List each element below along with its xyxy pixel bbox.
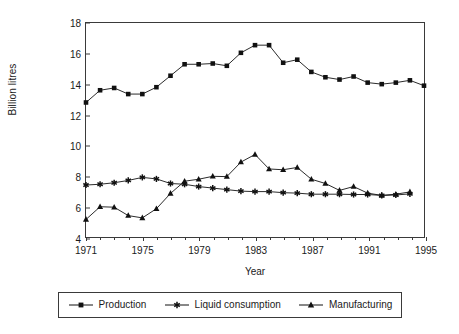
legend-label: Liquid consumption xyxy=(195,300,281,310)
x-tick-label: 1987 xyxy=(302,245,324,256)
x-tick-mark-minor xyxy=(171,237,172,240)
data-point-triangle xyxy=(252,151,258,157)
series-layer xyxy=(86,23,424,237)
data-point-triangle xyxy=(308,176,314,182)
x-tick-label: 1983 xyxy=(245,245,267,256)
y-axis-title: Billion litres xyxy=(7,20,18,160)
data-point-square xyxy=(225,64,230,69)
legend-label: Manufacturing xyxy=(329,300,392,310)
data-point-square xyxy=(422,83,427,88)
data-point-square xyxy=(337,77,342,82)
y-tick-label: 6 xyxy=(75,203,86,214)
data-point-triangle xyxy=(167,190,173,196)
data-point-square xyxy=(126,92,131,97)
x-tick-mark-minor xyxy=(214,237,215,240)
data-point-square xyxy=(112,86,117,91)
legend-label: Production xyxy=(99,300,147,310)
legend-entry-liquid-consumption[interactable]: Liquid consumption xyxy=(164,299,281,311)
y-tick-label: 10 xyxy=(70,141,86,152)
x-tick-mark-minor xyxy=(412,237,413,240)
x-tick-mark-minor xyxy=(157,237,158,240)
data-point-square xyxy=(323,75,328,80)
data-point-square xyxy=(351,74,356,79)
data-point-square xyxy=(394,80,399,85)
data-point-square xyxy=(239,51,244,56)
x-tick-mark-minor xyxy=(100,237,101,240)
series-line xyxy=(86,177,410,195)
chart-legend: ProductionLiquid consumptionManufacturin… xyxy=(58,292,402,318)
data-point-square xyxy=(365,80,370,85)
legend-entry-manufacturing[interactable]: Manufacturing xyxy=(298,299,392,311)
data-point-square xyxy=(98,88,103,93)
data-point-square xyxy=(168,73,173,78)
data-point-triangle xyxy=(351,183,357,189)
plot-area: 4681012141618 19711975197919831987199119… xyxy=(85,22,425,238)
x-tick-mark xyxy=(256,237,257,241)
data-point-square xyxy=(408,78,413,83)
data-point-triangle xyxy=(294,164,300,170)
data-point-triangle xyxy=(407,189,413,195)
legend-key-square-icon xyxy=(68,299,94,311)
y-tick-label: 4 xyxy=(75,234,86,245)
data-point-square xyxy=(196,62,201,67)
x-tick-mark-minor xyxy=(129,237,130,240)
series-liquid-consumption xyxy=(83,174,412,198)
y-tick-label: 12 xyxy=(70,110,86,121)
data-point-square xyxy=(140,92,145,97)
legend-key-asterisk-icon xyxy=(164,299,190,311)
data-point-square xyxy=(78,303,83,308)
data-point-square xyxy=(154,85,159,90)
x-tick-mark xyxy=(143,237,144,241)
x-tick-mark-minor xyxy=(114,237,115,240)
data-point-square xyxy=(267,43,272,48)
x-tick-mark-minor xyxy=(355,237,356,240)
data-point-triangle xyxy=(111,204,117,210)
x-tick-label: 1971 xyxy=(75,245,97,256)
data-point-square xyxy=(295,57,300,62)
data-point-square xyxy=(253,43,258,48)
x-tick-label: 1991 xyxy=(358,245,380,256)
x-tick-mark-minor xyxy=(185,237,186,240)
y-tick-label: 8 xyxy=(75,172,86,183)
x-tick-mark xyxy=(313,237,314,241)
x-tick-mark-minor xyxy=(270,237,271,240)
x-tick-mark-minor xyxy=(341,237,342,240)
line-chart: Billion litres 4681012141618 19711975197… xyxy=(0,0,459,334)
x-tick-mark-minor xyxy=(284,237,285,240)
series-line xyxy=(86,154,410,219)
x-tick-mark-minor xyxy=(242,237,243,240)
data-point-triangle xyxy=(308,301,314,307)
data-point-square xyxy=(281,60,286,65)
x-tick-mark-minor xyxy=(398,237,399,240)
x-tick-mark xyxy=(426,237,427,241)
data-point-triangle xyxy=(238,159,244,165)
data-point-square xyxy=(84,100,89,105)
legend-entry-production[interactable]: Production xyxy=(68,299,147,311)
data-point-square xyxy=(309,70,314,75)
x-tick-mark-minor xyxy=(228,237,229,240)
legend-key-triangle-icon xyxy=(298,299,324,311)
x-tick-mark-minor xyxy=(327,237,328,240)
x-tick-mark-minor xyxy=(384,237,385,240)
x-tick-label: 1975 xyxy=(132,245,154,256)
data-point-square xyxy=(210,61,215,66)
data-point-triangle xyxy=(210,173,216,179)
x-tick-label: 1995 xyxy=(415,245,437,256)
data-point-square xyxy=(379,82,384,87)
series-line xyxy=(86,45,424,102)
x-tick-mark xyxy=(86,237,87,241)
y-tick-label: 18 xyxy=(70,18,86,29)
series-manufacturing xyxy=(83,151,413,222)
x-tick-label: 1979 xyxy=(188,245,210,256)
y-tick-label: 16 xyxy=(70,48,86,59)
x-tick-mark-minor xyxy=(299,237,300,240)
series-production xyxy=(84,43,427,105)
data-point-square xyxy=(182,62,187,67)
y-tick-label: 14 xyxy=(70,79,86,90)
x-tick-mark xyxy=(199,237,200,241)
data-point-triangle xyxy=(125,212,131,218)
data-point-triangle xyxy=(97,203,103,209)
x-tick-mark xyxy=(369,237,370,241)
x-axis-title: Year xyxy=(85,266,425,277)
